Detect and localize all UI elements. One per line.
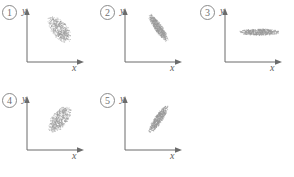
scatter-panel-2: 2 y x bbox=[98, 0, 190, 86]
panel-4-point-cloud bbox=[48, 107, 71, 133]
panel-2-point-cloud bbox=[149, 14, 169, 42]
scatter-panel-3: 3 y x bbox=[198, 0, 290, 86]
panel-index-badge: 4 bbox=[2, 93, 17, 108]
y-axis-label: y bbox=[120, 94, 124, 104]
panel-index-badge: 5 bbox=[100, 93, 115, 108]
y-axis-label: y bbox=[22, 6, 26, 16]
y-axis-label: y bbox=[220, 6, 224, 16]
scatter-panel-1: 1 y x bbox=[0, 0, 92, 86]
x-axis-label: x bbox=[72, 151, 76, 161]
x-axis-label: x bbox=[72, 63, 76, 73]
x-axis-label: x bbox=[270, 63, 274, 73]
panel-1-axes bbox=[24, 8, 84, 65]
panel-3-axes bbox=[222, 8, 282, 65]
scatter-plot-figure: 1 y x 2 y x 3 y x bbox=[0, 0, 294, 177]
panel-index-badge: 2 bbox=[100, 5, 115, 20]
panel-3-point-cloud bbox=[240, 29, 279, 36]
y-axis-label: y bbox=[22, 94, 26, 104]
x-axis-label: x bbox=[170, 151, 174, 161]
panel-2-axes bbox=[122, 8, 182, 65]
scatter-panel-5: 5 y x bbox=[98, 88, 190, 174]
panel-index-badge: 1 bbox=[2, 5, 17, 20]
panel-5-point-cloud bbox=[148, 106, 168, 133]
panel-index-badge: 3 bbox=[200, 5, 215, 20]
scatter-panel-4: 4 y x bbox=[0, 88, 92, 174]
x-axis-label: x bbox=[170, 63, 174, 73]
panel-1-point-cloud bbox=[48, 16, 71, 42]
y-axis-label: y bbox=[120, 6, 124, 16]
